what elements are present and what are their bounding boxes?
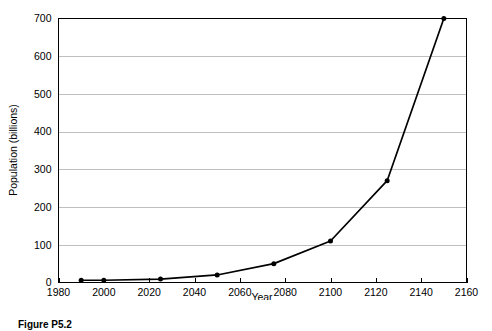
x-tick-label-2080: 2080 [273, 286, 297, 298]
x-tick-label-2000: 2000 [92, 286, 116, 298]
population-series-markers [79, 16, 447, 283]
x-tick-label-2100: 2100 [319, 286, 343, 298]
x-tick-label-2160: 2160 [455, 286, 479, 298]
data-point-2100 [328, 239, 333, 244]
chart-plot-area: 0100200300400500600700 19802000202020402… [0, 0, 492, 300]
y-tick-label-500: 500 [34, 88, 52, 100]
y-tick-label-700: 700 [34, 12, 52, 24]
data-point-2150 [441, 16, 446, 21]
y-axis-title: Population (billions) [7, 104, 19, 196]
data-point-2000 [101, 278, 106, 283]
x-tick-label-2040: 2040 [183, 286, 207, 298]
x-tick-label-2140: 2140 [409, 286, 433, 298]
x-axis-title: Year [251, 291, 273, 300]
x-tick-label-2060: 2060 [228, 286, 252, 298]
data-point-2125 [385, 178, 390, 183]
y-tick-label-600: 600 [34, 50, 52, 62]
figure-container: 0100200300400500600700 19802000202020402… [0, 0, 492, 331]
x-tick-label-2020: 2020 [137, 286, 161, 298]
x-tick-label-2120: 2120 [364, 286, 388, 298]
y-tick-label-100: 100 [34, 239, 52, 251]
gridlines [59, 57, 467, 246]
y-axis-tick-labels: 0100200300400500600700 [34, 12, 52, 288]
data-point-1990 [79, 278, 84, 283]
data-point-2050 [215, 272, 220, 277]
figure-caption: Figure P5.2 [18, 319, 72, 330]
plot-frame-border [59, 19, 467, 283]
data-point-2025 [158, 277, 163, 282]
y-tick-label-300: 300 [34, 163, 52, 175]
y-tick-label-400: 400 [34, 125, 52, 137]
population-series-line [81, 19, 444, 281]
population-growth-line-chart: 0100200300400500600700 19802000202020402… [0, 0, 492, 300]
y-tick-label-200: 200 [34, 201, 52, 213]
x-tick-label-1980: 1980 [47, 286, 71, 298]
data-point-2075 [271, 261, 276, 266]
